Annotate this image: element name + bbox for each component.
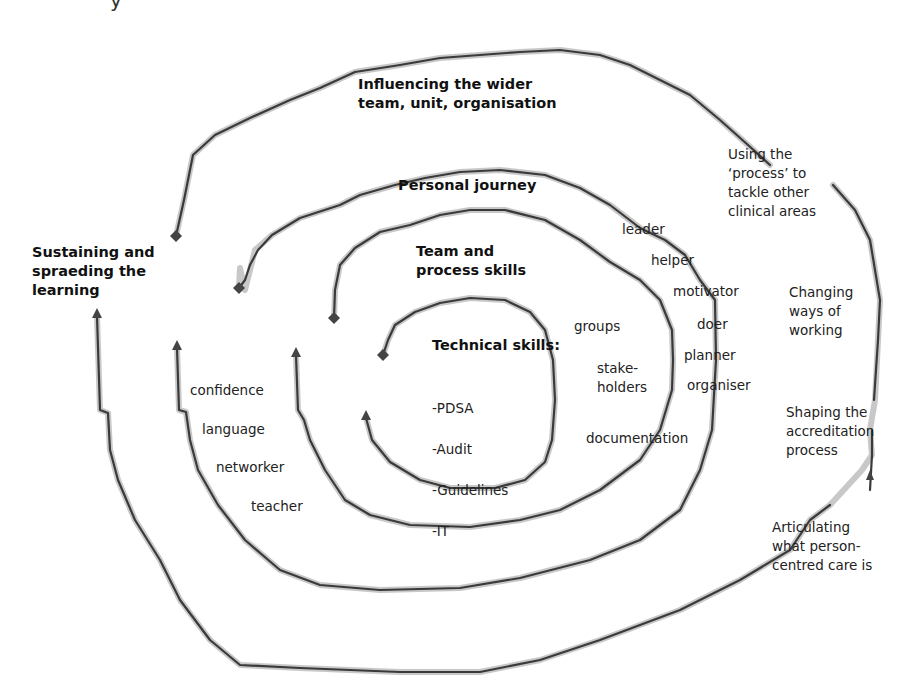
technical-item-it: -IT — [432, 521, 508, 542]
personal-label-teacher: teacher — [251, 497, 303, 516]
team-label-doer: doer — [697, 315, 728, 334]
technical-label-stakeholders: stake- holders — [597, 359, 647, 397]
ring-influencing-path — [92, 50, 880, 672]
arrow-head-icon — [361, 410, 371, 420]
technical-item-audit: -Audit — [432, 439, 508, 460]
technical-label-documentation: documentation — [586, 429, 688, 448]
influencing-label-articulating: Articulating what person- centred care i… — [772, 518, 872, 575]
team-label-helper: helper — [651, 251, 694, 270]
arrow-head-icon — [866, 470, 874, 480]
team-label-leader: leader — [622, 220, 665, 239]
arrow-head-icon — [172, 340, 182, 350]
team-label-motivator: motivator — [673, 282, 739, 301]
diamond-end-icon — [328, 312, 340, 324]
arrow-head-icon — [92, 308, 102, 318]
technical-label-groups: groups — [574, 317, 620, 336]
team-label-organiser: organiser — [687, 376, 751, 395]
personal-label-networker: networker — [216, 458, 284, 477]
influencing-label-changing-ways: Changing ways of working — [789, 283, 853, 340]
diamond-end-icon — [170, 230, 182, 242]
technical-items-list: -PDSA -Audit -Guidelines -IT — [432, 377, 508, 562]
personal-label-confidence: confidence — [190, 381, 264, 400]
personal-label-language: language — [202, 420, 265, 439]
technical-item-guidelines: -Guidelines — [432, 480, 508, 501]
ring-title-personal: Personal journey — [398, 176, 536, 195]
ring-title-technical: Technical skills: — [432, 336, 560, 355]
ring-title-influencing: Influencing the wider team, unit, organi… — [358, 75, 557, 113]
influencing-label-shaping: Shaping the accreditation process — [786, 403, 874, 460]
influencing-label-using-process: Using the ‘process’ to tackle other clin… — [728, 145, 816, 221]
technical-item-pdsa: -PDSA — [432, 398, 508, 419]
team-label-planner: planner — [684, 346, 736, 365]
arrow-head-icon — [291, 347, 301, 357]
outer-label-sustaining: Sustaining and spraeding the learning — [32, 243, 155, 300]
ring-title-team: Team and process skills — [416, 242, 526, 280]
